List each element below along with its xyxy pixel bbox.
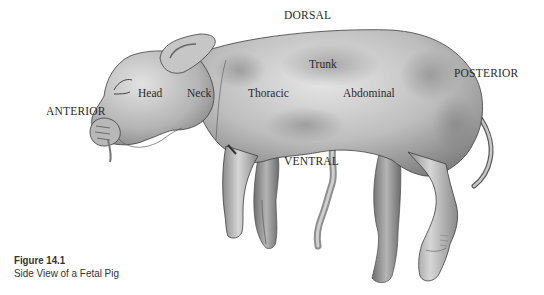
label-dorsal: DORSAL: [284, 10, 331, 22]
figure: DORSAL POSTERIOR ANTERIOR VENTRAL Head N…: [0, 0, 544, 295]
label-head: Head: [138, 88, 162, 100]
fore-leg-back: [254, 156, 279, 249]
figure-title: Side View of a Fetal Pig: [14, 267, 119, 280]
label-posterior: POSTERIOR: [454, 68, 518, 80]
fore-leg-front: [223, 146, 258, 238]
label-abdominal: Abdominal: [343, 88, 395, 100]
snout: [90, 118, 120, 146]
label-neck: Neck: [187, 88, 211, 100]
label-anterior: ANTERIOR: [46, 106, 106, 118]
label-trunk: Trunk: [309, 59, 337, 71]
figure-caption: Figure 14.1 Side View of a Fetal Pig: [14, 254, 131, 280]
label-thoracic: Thoracic: [248, 88, 289, 100]
hind-leg-back: [372, 150, 401, 283]
label-ventral: VENTRAL: [284, 156, 339, 168]
fetal-pig-illustration: [0, 0, 544, 295]
figure-number: Figure 14.1: [14, 254, 117, 267]
